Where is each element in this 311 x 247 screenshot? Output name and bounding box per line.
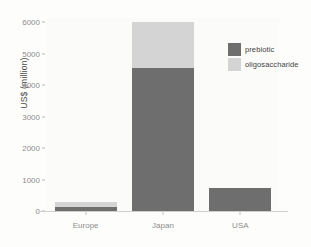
legend-swatch-prebiotic <box>228 43 241 56</box>
y-tick-label: 6000 <box>6 18 40 27</box>
x-tick-label-europe: Europe <box>73 221 99 230</box>
bar-japan <box>132 22 194 211</box>
x-tick-mark <box>163 212 164 215</box>
y-tick-mark <box>42 116 45 117</box>
x-tick-label-usa: USA <box>232 221 248 230</box>
legend-label-oligosaccharide: oligosaccharide <box>245 60 299 69</box>
y-tick-label: 1000 <box>6 175 40 184</box>
bar-segment-oligosaccharide <box>132 22 194 68</box>
y-tick-label: 2000 <box>6 144 40 153</box>
y-tick-label: 5000 <box>6 49 40 58</box>
bar-segment-prebiotic <box>209 188 271 211</box>
x-tick-label-japan: Japan <box>152 221 174 230</box>
y-tick-mark <box>42 148 45 149</box>
legend-label-prebiotic: prebiotic <box>245 45 274 54</box>
y-tick-mark <box>42 179 45 180</box>
y-tick-mark <box>42 22 45 23</box>
y-tick-mark <box>42 85 45 86</box>
legend-swatch-oligosaccharide <box>228 58 241 71</box>
x-tick-mark <box>85 212 86 215</box>
y-tick-mark <box>42 53 45 54</box>
legend-item-prebiotic[interactable]: prebiotic <box>228 42 310 56</box>
y-tick-label: 0 <box>6 207 40 216</box>
y-tick-label: 4000 <box>6 81 40 90</box>
legend-item-oligosaccharide[interactable]: oligosaccharide <box>228 57 310 71</box>
x-tick-mark <box>240 212 241 215</box>
chart-legend: prebioticoligosaccharide <box>228 42 310 72</box>
bar-europe <box>55 22 117 211</box>
chart-figure: US$ (million) 0100020003000400050006000 … <box>0 0 311 247</box>
bar-segment-oligosaccharide <box>55 202 117 207</box>
y-tick-label: 3000 <box>6 112 40 121</box>
bar-segment-prebiotic <box>132 68 194 211</box>
